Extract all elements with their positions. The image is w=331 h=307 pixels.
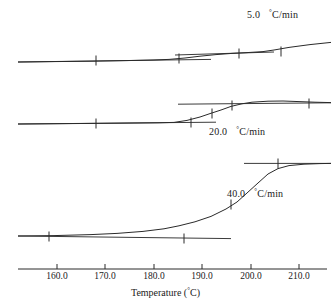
axis-unit-c: C bbox=[190, 287, 197, 298]
dsc-thermogram-chart bbox=[0, 0, 331, 307]
heating-rate-label-20: 20.0°C/min bbox=[209, 126, 265, 137]
heating-rate-label-40: 40.0°C/min bbox=[227, 188, 283, 199]
heating-rate-unit-40: °C/min bbox=[254, 188, 283, 199]
x-axis-title: Temperature (°C) bbox=[0, 287, 331, 298]
x-tick-label-1: 170.0 bbox=[94, 271, 115, 281]
degree-symbol-40: ° bbox=[254, 187, 257, 195]
heating-rate-value-20: 20.0 bbox=[209, 126, 227, 137]
heating-rate-unit-20: °C/min bbox=[236, 126, 265, 137]
dsc-curve-40 bbox=[18, 163, 331, 236]
x-tick-label-2: 180.0 bbox=[143, 271, 164, 281]
heating-rate-label-5: 5.0°C/min bbox=[247, 9, 298, 20]
heating-rate-unit-5: °C/min bbox=[269, 9, 298, 20]
heating-rate-value-5: 5.0 bbox=[247, 9, 260, 20]
x-tick-label-0: 160.0 bbox=[46, 271, 67, 281]
baseline-right-20 bbox=[178, 103, 331, 104]
tick-markers-5 bbox=[96, 47, 281, 66]
degree-symbol-20: ° bbox=[236, 125, 239, 133]
x-tick-label-3: 190.0 bbox=[191, 271, 212, 281]
axis-ticks bbox=[57, 264, 299, 269]
x-tick-label-4: 200.0 bbox=[240, 271, 261, 281]
degree-symbol-5: ° bbox=[269, 8, 272, 16]
tick-markers-40 bbox=[49, 159, 278, 244]
x-tick-label-5: 210.0 bbox=[288, 271, 309, 281]
baseline-left-40 bbox=[18, 236, 231, 239]
curve-group-5 bbox=[18, 42, 331, 65]
dsc-curve-20 bbox=[18, 101, 331, 124]
curve-group-20 bbox=[18, 99, 331, 129]
heating-rate-value-40: 40.0 bbox=[227, 188, 245, 199]
dsc-curve-5 bbox=[18, 42, 331, 62]
curve-group-40 bbox=[18, 159, 331, 244]
x-axis bbox=[18, 264, 327, 269]
